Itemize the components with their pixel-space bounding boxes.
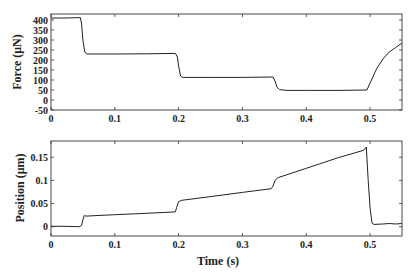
xtick-label: 0.3 bbox=[236, 113, 249, 124]
ytick-label: 0.05 bbox=[31, 198, 49, 209]
ytick-label: 0.1 bbox=[36, 175, 49, 186]
xtick-label: 0.2 bbox=[172, 113, 185, 124]
ytick-label: 150 bbox=[33, 65, 48, 76]
xtick-label: 0 bbox=[49, 113, 54, 124]
xtick-label: 0.3 bbox=[236, 239, 249, 250]
ytick-label: 200 bbox=[33, 55, 48, 66]
xtick-label: 0.1 bbox=[109, 239, 122, 250]
xtick-label: 0.4 bbox=[300, 239, 313, 250]
force-tick-marks bbox=[51, 14, 402, 110]
ytick-label: 400 bbox=[33, 15, 48, 26]
ytick-label: 0 bbox=[43, 95, 48, 106]
position-xlabel: Time (s) bbox=[197, 254, 239, 268]
position-line bbox=[51, 147, 402, 227]
force-plot-frame bbox=[51, 14, 402, 110]
ytick-label: 350 bbox=[33, 25, 48, 36]
ytick-label: 100 bbox=[33, 75, 48, 86]
ytick-label: 0 bbox=[43, 221, 48, 232]
position-tick-marks bbox=[51, 141, 402, 236]
position-xtick-labels: 00.10.20.30.40.5 bbox=[49, 239, 377, 250]
force-panel: -50050100150200250300350400 00.10.20.30.… bbox=[10, 14, 402, 124]
ytick-label: 250 bbox=[33, 45, 48, 56]
force-line bbox=[51, 18, 402, 91]
position-ylabel: Position (μm) bbox=[13, 153, 27, 222]
xtick-label: 0.4 bbox=[300, 113, 313, 124]
force-ytick-labels: -50050100150200250300350400 bbox=[33, 15, 48, 116]
ytick-label: -50 bbox=[35, 105, 48, 116]
ytick-label: 50 bbox=[38, 85, 48, 96]
force-xtick-labels: 00.10.20.30.40.5 bbox=[49, 113, 377, 124]
xtick-label: 0.5 bbox=[364, 239, 377, 250]
position-panel: 00.050.10.15 00.10.20.30.40.5 Position (… bbox=[13, 141, 402, 268]
position-plot-frame bbox=[51, 141, 402, 236]
position-ytick-labels: 00.050.10.15 bbox=[31, 152, 49, 233]
xtick-label: 0 bbox=[49, 239, 54, 250]
ytick-label: 300 bbox=[33, 35, 48, 46]
xtick-label: 0.5 bbox=[364, 113, 377, 124]
force-ylabel: Force (μN) bbox=[10, 34, 24, 90]
xtick-label: 0.2 bbox=[172, 239, 185, 250]
xtick-label: 0.1 bbox=[109, 113, 122, 124]
ytick-label: 0.15 bbox=[31, 152, 49, 163]
